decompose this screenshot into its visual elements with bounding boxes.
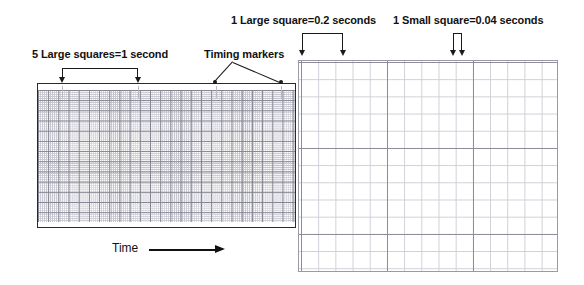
- arrowhead-down-icon: [135, 77, 141, 83]
- bracket-one-large-square: [302, 33, 343, 51]
- bracket-leg-left: [62, 68, 63, 77]
- timing-marker-tick: [216, 86, 217, 98]
- label-timing-markers: Timing markers: [204, 48, 284, 60]
- ecg-fine-grid: [38, 90, 295, 222]
- bracket-leg-left: [453, 33, 454, 50]
- arrowhead-down-icon: [340, 50, 346, 56]
- bracket-leg-left: [302, 33, 303, 50]
- leader-line-timing-markers-left: [214, 61, 233, 82]
- bracket-leg-right: [137, 68, 138, 77]
- figure-canvas: 5 Large squares=1 second Timing markers …: [0, 0, 584, 285]
- time-axis-arrow-line: [149, 249, 217, 251]
- ecg-magnified-grid-panel: [298, 60, 558, 272]
- bracket-five-large-squares: [62, 68, 138, 78]
- timing-marker-tick: [281, 86, 282, 98]
- bracket-bar: [302, 33, 343, 34]
- bracket-bar: [62, 68, 138, 69]
- bracket-leg-right: [461, 33, 462, 50]
- ecg-fine-strip-panel: [37, 83, 296, 228]
- bracket-one-small-square: [453, 33, 462, 51]
- label-time-axis: Time: [112, 241, 138, 255]
- arrowhead-down-icon: [59, 77, 65, 83]
- leader-endpoint-dot: [279, 80, 283, 84]
- timing-marker-tick: [62, 86, 63, 98]
- timing-marker-tick: [138, 86, 139, 98]
- ecg-fine-strip-top-band: [38, 84, 295, 90]
- leader-line-timing-markers-right: [233, 62, 280, 83]
- label-one-large-square: 1 Large square=0.2 seconds: [231, 14, 376, 26]
- bracket-leg-right: [342, 33, 343, 50]
- arrowhead-down-icon: [299, 50, 305, 56]
- arrowhead-down-icon: [450, 50, 456, 56]
- leader-endpoint-dot: [213, 80, 217, 84]
- time-axis-arrowhead-icon: [215, 245, 225, 253]
- ecg-magnified-grid: [299, 61, 557, 271]
- label-five-large-squares: 5 Large squares=1 second: [32, 48, 168, 60]
- arrowhead-down-icon: [459, 50, 465, 56]
- label-one-small-square: 1 Small square=0.04 seconds: [393, 14, 543, 26]
